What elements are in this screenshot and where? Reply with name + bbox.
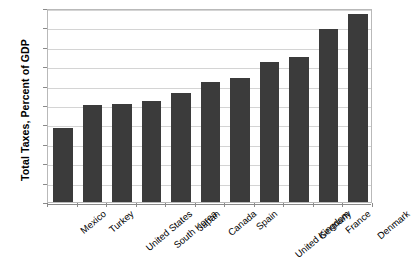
x-axis-tick-label: Mexico bbox=[78, 208, 108, 236]
bar bbox=[83, 105, 103, 202]
bar bbox=[142, 101, 162, 202]
bar bbox=[260, 62, 280, 202]
x-axis-tick-mark bbox=[106, 203, 107, 207]
bar bbox=[53, 128, 73, 202]
x-axis-tick-mark bbox=[47, 203, 48, 207]
x-axis-tick-mark bbox=[136, 203, 137, 207]
gridline bbox=[48, 10, 371, 11]
x-axis-tick-mark bbox=[224, 203, 225, 207]
x-axis-tick-mark bbox=[165, 203, 166, 207]
x-axis-tick-mark bbox=[342, 203, 343, 207]
bar bbox=[289, 57, 309, 203]
x-axis-tick-mark bbox=[195, 203, 196, 207]
x-axis-tick-mark bbox=[77, 203, 78, 207]
x-axis-tick-mark bbox=[254, 203, 255, 207]
bar bbox=[171, 93, 191, 202]
plot-area bbox=[47, 9, 372, 203]
x-axis-tick-label: Spain bbox=[254, 208, 280, 232]
bar bbox=[319, 29, 339, 202]
x-axis-tick-mark bbox=[313, 203, 314, 207]
bar bbox=[201, 82, 221, 202]
x-axis-tick-mark bbox=[283, 203, 284, 207]
x-axis-tick-label: Turkey bbox=[107, 208, 136, 235]
bar bbox=[230, 78, 250, 202]
x-axis-tick-label: Denmark bbox=[375, 208, 412, 241]
bar bbox=[112, 104, 132, 202]
y-axis-title: Total Taxes, Percent of GDP bbox=[19, 15, 31, 205]
bar bbox=[348, 14, 368, 202]
gridline bbox=[48, 204, 371, 205]
x-axis-tick-mark bbox=[372, 203, 373, 207]
